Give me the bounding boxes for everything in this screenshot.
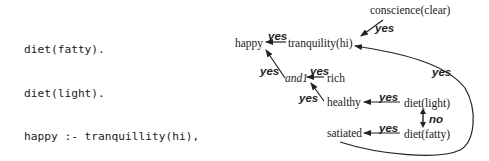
node-diet-fatty: diet(fatty)	[404, 128, 450, 140]
edge-label-dietlight-dietfatty: no	[429, 113, 443, 125]
edge-label-tranquility-happy: yes	[268, 30, 287, 42]
edge-label-rich-and1: yes	[310, 65, 329, 77]
edge-label-dietfatty-satiated: yes	[379, 122, 398, 134]
node-healthy: healthy	[327, 96, 361, 108]
node-rich: rich	[327, 72, 345, 84]
edge-label-conscience-tranquility: yes	[375, 22, 394, 34]
edge-label-and1-happy: yes	[260, 65, 279, 77]
edge-label-dietlight-healthy: yes	[379, 91, 398, 103]
node-and1: and1	[285, 72, 308, 84]
node-conscience-clear: conscience(clear)	[370, 4, 450, 16]
node-happy: happy	[235, 37, 263, 49]
edge-label-satiated-tranquility: yes	[432, 66, 451, 78]
node-diet-light: diet(light)	[404, 97, 450, 109]
node-satiated: satiated	[327, 127, 362, 139]
node-tranquility-hi: tranquility(hi)	[288, 37, 353, 49]
edge-label-healthy-and1: yes	[299, 92, 318, 104]
